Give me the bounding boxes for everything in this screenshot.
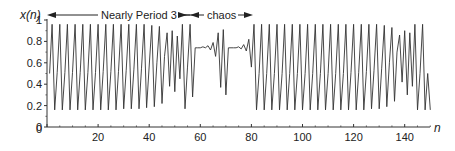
x-tick-label: 40 [143,131,155,143]
minor-ticks [46,31,431,127]
y-tick-label: 0.2 [27,100,42,112]
chart-container: 00.20.40.60.810 20406080100120140 x(n) n… [0,0,455,151]
annotation-label-chaos: chaos [207,9,237,21]
y-axis-title: x(n) [19,8,41,22]
y-tick-label: 0.4 [27,78,42,90]
x-tick-label: 100 [293,131,311,143]
y-tick-label: 0.6 [27,57,42,69]
series-x-n [50,24,431,110]
line-chart: 00.20.40.60.810 20406080100120140 x(n) n… [0,0,455,151]
x-tick-label: 20 [92,131,104,143]
annotation-chaos: chaos [190,9,253,21]
x-tick-label: 140 [396,131,414,143]
annotation-nearly-period-3: Nearly Period 3 [47,9,195,21]
arrowhead-right-icon [178,12,187,18]
origin-label: 0 [36,123,42,135]
x-tick-label: 60 [194,131,206,143]
x-tick-label: 120 [344,131,362,143]
y-tick-label: 0.8 [27,35,42,47]
y-ticks: 00.20.40.60.810 [27,14,47,135]
arrowhead-left-icon [47,12,56,18]
x-axis-title: n [434,121,441,135]
x-tick-label: 80 [245,131,257,143]
annotation-label-period3: Nearly Period 3 [101,9,177,21]
arrowhead-right-icon [244,12,253,18]
